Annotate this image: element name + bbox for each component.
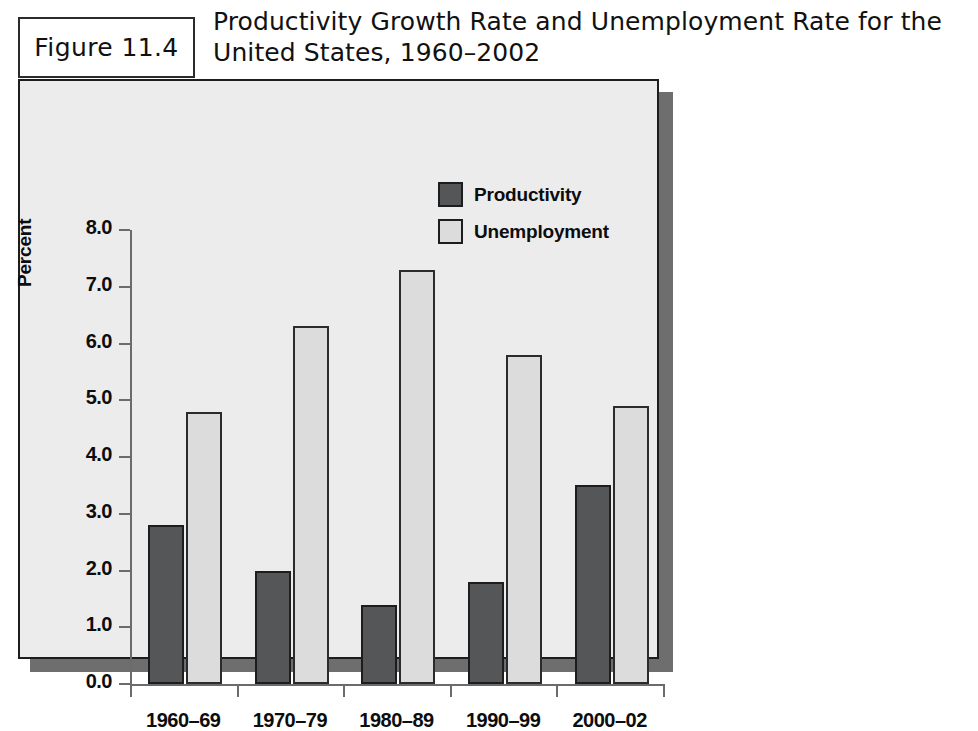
y-axis-tick: 3.0 (119, 513, 130, 515)
y-axis-tick-label: 3.0 (86, 500, 112, 523)
y-axis-tick: 2.0 (119, 570, 130, 572)
chart-legend: Productivity Unemployment (438, 182, 609, 256)
bar-productivity-2000-02 (575, 485, 611, 684)
x-axis-tick (663, 684, 665, 697)
bar-productivity-1970-79 (255, 571, 291, 685)
y-axis-tick-label: 7.0 (86, 273, 112, 296)
figure-label-box: Figure 11.4 (18, 17, 195, 78)
bar-group: 1990–99 (450, 230, 557, 684)
x-axis-category-label: 1970–79 (237, 709, 344, 731)
y-axis-tick-label: 6.0 (86, 330, 112, 353)
x-axis-category-label: 1960–69 (130, 709, 237, 731)
legend-swatch-productivity-icon (438, 182, 463, 207)
chart-panel: Productivity Unemployment Percent 8.07.0… (18, 79, 659, 659)
x-axis-tick (130, 684, 132, 697)
y-axis-tick: 4.0 (119, 456, 130, 458)
y-axis-tick-label: 5.0 (86, 386, 112, 409)
bar-group: 2000–02 (556, 230, 663, 684)
bar-unemployment-1980-89 (399, 270, 435, 684)
bar-unemployment-1990-99 (506, 355, 542, 684)
legend-label-productivity: Productivity (474, 184, 581, 206)
legend-label-unemployment: Unemployment (474, 221, 609, 243)
bar-unemployment-1970-79 (293, 326, 329, 684)
y-axis-tick: 6.0 (119, 343, 130, 345)
y-axis-tick: 5.0 (119, 399, 130, 401)
figure-label-text: Figure 11.4 (34, 33, 178, 62)
y-axis-tick-label: 2.0 (86, 557, 112, 580)
y-axis-tick-label: 0.0 (86, 670, 112, 693)
figure-title: Productivity Growth Rate and Unemploymen… (213, 6, 953, 68)
bar-unemployment-2000-02 (613, 406, 649, 684)
x-axis-category-label: 2000–02 (556, 709, 663, 731)
legend-item-productivity: Productivity (438, 182, 609, 207)
legend-swatch-unemployment-icon (438, 219, 463, 244)
bar-group: 1960–69 (130, 230, 237, 684)
y-axis-tick-label: 4.0 (86, 443, 112, 466)
plot-area: 8.07.06.05.04.03.02.01.00.0 1960–691970–… (130, 230, 663, 684)
y-axis-tick-label: 8.0 (86, 216, 112, 239)
y-axis-tick: 8.0 (119, 229, 130, 231)
y-axis-title: Percent (14, 219, 36, 287)
x-axis-tick (343, 684, 345, 697)
bar-group: 1980–89 (343, 230, 450, 684)
x-axis-category-label: 1980–89 (343, 709, 450, 731)
bar-productivity-1980-89 (361, 605, 397, 684)
x-axis-category-label: 1990–99 (450, 709, 557, 731)
bar-group: 1970–79 (237, 230, 344, 684)
y-axis-tick-label: 1.0 (86, 613, 112, 636)
legend-item-unemployment: Unemployment (438, 219, 609, 244)
x-axis-tick (450, 684, 452, 697)
x-axis-tick (237, 684, 239, 697)
y-axis-tick: 0.0 (119, 683, 130, 685)
x-axis-tick (556, 684, 558, 697)
bar-productivity-1990-99 (468, 582, 504, 684)
y-axis-tick: 7.0 (119, 286, 130, 288)
bar-productivity-1960-69 (148, 525, 184, 684)
x-axis-line (130, 684, 663, 686)
bar-unemployment-1960-69 (186, 412, 222, 684)
y-axis-tick: 1.0 (119, 626, 130, 628)
